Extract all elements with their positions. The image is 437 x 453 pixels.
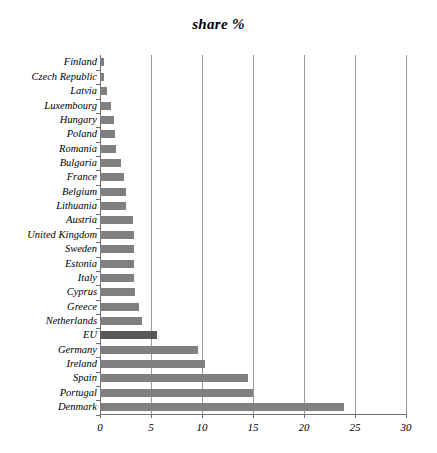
bar bbox=[100, 274, 134, 282]
bar-row: Bulgaria bbox=[0, 156, 437, 171]
bar bbox=[100, 173, 124, 181]
x-axis-tick-label: 30 bbox=[401, 421, 412, 433]
bar-row: Ireland bbox=[0, 357, 437, 372]
bar bbox=[100, 73, 104, 81]
category-label: Finland bbox=[64, 57, 97, 68]
x-axis-tick-mark bbox=[253, 414, 254, 418]
x-axis-tick-mark bbox=[151, 414, 152, 418]
bar bbox=[100, 317, 142, 325]
chart-title: share % bbox=[0, 16, 437, 33]
bar-row: France bbox=[0, 170, 437, 185]
x-axis-tick-mark bbox=[355, 414, 356, 418]
bar-chart: share % FinlandCzech RepublicLatviaLuxem… bbox=[0, 0, 437, 453]
bar-row: Latvia bbox=[0, 84, 437, 99]
bar-row: Spain bbox=[0, 371, 437, 386]
category-label: Austria bbox=[66, 215, 97, 226]
bar bbox=[100, 130, 115, 138]
category-label: Italy bbox=[78, 273, 97, 284]
bar bbox=[100, 360, 205, 368]
category-label: Cyprus bbox=[67, 287, 97, 298]
x-axis-tick-label: 15 bbox=[248, 421, 259, 433]
bar bbox=[100, 102, 111, 110]
x-axis-tick-label: 20 bbox=[299, 421, 310, 433]
bar-row: Germany bbox=[0, 342, 437, 357]
category-label: Sweden bbox=[65, 244, 97, 255]
x-axis-tick-label: 5 bbox=[148, 421, 154, 433]
category-label: Netherlands bbox=[46, 316, 97, 327]
x-axis-tick-mark bbox=[202, 414, 203, 418]
bar bbox=[100, 389, 253, 397]
bar-row: EU bbox=[0, 328, 437, 343]
x-axis-tick-mark bbox=[406, 414, 407, 418]
category-label: United Kingdom bbox=[27, 230, 97, 241]
bar-row: Luxembourg bbox=[0, 98, 437, 113]
bar-row: Romania bbox=[0, 141, 437, 156]
category-label: Germany bbox=[58, 344, 97, 355]
x-axis-tick-mark bbox=[100, 414, 101, 418]
category-label: Spain bbox=[73, 373, 97, 384]
bar bbox=[100, 87, 107, 95]
bar-row: Belgium bbox=[0, 184, 437, 199]
bar-row: Sweden bbox=[0, 242, 437, 257]
category-label: Hungary bbox=[60, 115, 97, 126]
bar bbox=[100, 374, 248, 382]
x-axis-tick-label: 10 bbox=[197, 421, 208, 433]
bar-row: Italy bbox=[0, 270, 437, 285]
category-label: Estonia bbox=[65, 258, 97, 269]
bar-row: Estonia bbox=[0, 256, 437, 271]
bar-row: Netherlands bbox=[0, 313, 437, 328]
category-label: Bulgaria bbox=[60, 158, 97, 169]
x-axis-tick-label: 25 bbox=[350, 421, 361, 433]
bar-row: Finland bbox=[0, 55, 437, 70]
x-axis-tick-label: 0 bbox=[97, 421, 103, 433]
bar bbox=[100, 231, 134, 239]
category-label: Czech Republic bbox=[31, 72, 97, 83]
bar bbox=[100, 202, 126, 210]
category-label: Belgium bbox=[62, 186, 97, 197]
bar bbox=[100, 288, 135, 296]
category-label: Lithuania bbox=[56, 201, 97, 212]
bar bbox=[100, 188, 126, 196]
category-label: Latvia bbox=[70, 86, 97, 97]
bar bbox=[100, 216, 133, 224]
bar-row: United Kingdom bbox=[0, 227, 437, 242]
bar bbox=[100, 346, 198, 354]
bar-row: Austria bbox=[0, 213, 437, 228]
bar bbox=[100, 159, 121, 167]
category-label: EU bbox=[83, 330, 97, 341]
bar-row: Greece bbox=[0, 299, 437, 314]
category-label: Denmark bbox=[58, 402, 97, 413]
bar bbox=[100, 403, 344, 411]
bar-row: Cyprus bbox=[0, 285, 437, 300]
bar bbox=[100, 303, 139, 311]
bar-row: Czech Republic bbox=[0, 69, 437, 84]
category-label: Romania bbox=[59, 143, 97, 154]
bar bbox=[100, 145, 116, 153]
category-label: Poland bbox=[67, 129, 97, 140]
category-label: Luxembourg bbox=[44, 100, 97, 111]
category-label: Portugal bbox=[60, 387, 97, 398]
category-label: France bbox=[67, 172, 97, 183]
bar bbox=[100, 260, 134, 268]
bar-row: Lithuania bbox=[0, 199, 437, 214]
category-label: Greece bbox=[67, 301, 97, 312]
bar-row: Portugal bbox=[0, 385, 437, 400]
bar bbox=[100, 245, 134, 253]
bar bbox=[100, 331, 157, 339]
bar bbox=[100, 58, 104, 66]
bar-row: Poland bbox=[0, 127, 437, 142]
bar-row: Hungary bbox=[0, 112, 437, 127]
category-label: Ireland bbox=[66, 359, 97, 370]
bar bbox=[100, 116, 114, 124]
x-axis-tick-mark bbox=[304, 414, 305, 418]
bar-row: Denmark bbox=[0, 400, 437, 415]
